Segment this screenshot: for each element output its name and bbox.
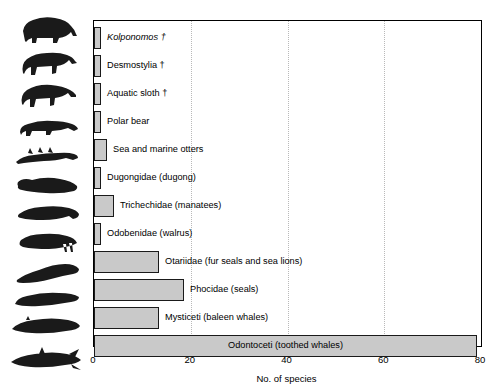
- bar: [94, 167, 101, 189]
- bar-label: Dugongidae (dugong): [101, 173, 196, 182]
- polar-bear-silhouette-icon: [0, 112, 92, 142]
- bar-label: Otariidae (fur seals and sea lions): [159, 257, 302, 266]
- bar: [94, 139, 107, 161]
- bar-label: Odobenidae (walrus): [101, 229, 192, 238]
- bar-row: Desmostylia †: [94, 55, 165, 77]
- bar: [94, 279, 184, 301]
- plot-area: Kolponomos † Desmostylia † Aquatic sloth…: [93, 20, 482, 347]
- species-count-figure: Kolponomos † Desmostylia † Aquatic sloth…: [0, 0, 504, 392]
- bar-label: Kolponomos †: [101, 33, 166, 42]
- bar-row: Polar bear: [94, 111, 149, 133]
- bar-label: Polar bear: [101, 117, 149, 126]
- bar-label: Aquatic sloth †: [101, 89, 167, 98]
- bar: [94, 55, 101, 77]
- aquatic-sloth-silhouette-icon: [0, 80, 92, 112]
- baleen-whale-silhouette-icon: [0, 312, 92, 340]
- bar: [94, 251, 159, 273]
- bar-row: Otariidae (fur seals and sea lions): [94, 251, 302, 273]
- bar: [94, 83, 101, 105]
- bar-row: Phocidae (seals): [94, 279, 258, 301]
- bar-label: Desmostylia †: [101, 61, 165, 70]
- bar-label: Sea and marine otters: [107, 145, 203, 154]
- x-tick-label: 80: [475, 354, 486, 365]
- bar-row: Trichechidae (manatees): [94, 195, 221, 217]
- otter-silhouette-icon: [0, 142, 92, 170]
- silhouette-column: [0, 0, 92, 392]
- sea-lion-silhouette-icon: [0, 258, 92, 286]
- x-axis-title: No. of species: [93, 373, 480, 384]
- x-axis: 0 20 40 60 80 No. of species: [93, 347, 480, 387]
- bar: [94, 223, 101, 245]
- x-tick-label: 60: [378, 354, 389, 365]
- x-tick-label: 20: [184, 354, 195, 365]
- bar: [94, 307, 159, 329]
- bar: [94, 27, 101, 49]
- bar-label: Mysticeti (baleen whales): [159, 313, 268, 322]
- manatee-silhouette-icon: [0, 200, 92, 228]
- seal-silhouette-icon: [0, 286, 92, 312]
- bar-row: Sea and marine otters: [94, 139, 203, 161]
- bar: [94, 111, 101, 133]
- bar-label: Trichechidae (manatees): [114, 201, 221, 210]
- bar-row: Aquatic sloth †: [94, 83, 167, 105]
- desmostylia-silhouette-icon: [0, 48, 92, 80]
- walrus-silhouette-icon: [0, 228, 92, 258]
- gridline-60: [384, 21, 385, 346]
- dugong-silhouette-icon: [0, 170, 92, 200]
- kolponomos-silhouette-icon: [0, 14, 92, 48]
- bar-label: Phocidae (seals): [184, 285, 258, 294]
- bar-row: Odobenidae (walrus): [94, 223, 192, 245]
- bar-row: Dugongidae (dugong): [94, 167, 196, 189]
- toothed-whale-silhouette-icon: [0, 344, 92, 376]
- bar-row: Mysticeti (baleen whales): [94, 307, 268, 329]
- gridline-40: [288, 21, 289, 346]
- bar: [94, 195, 114, 217]
- x-tick-label: 0: [90, 354, 95, 365]
- bar-row: Kolponomos †: [94, 27, 166, 49]
- x-tick-label: 40: [281, 354, 292, 365]
